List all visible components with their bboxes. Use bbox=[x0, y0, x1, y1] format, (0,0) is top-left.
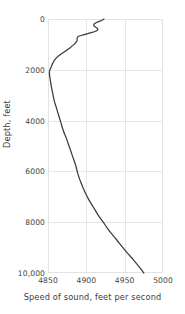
x-tick-label: 5000 bbox=[153, 276, 173, 285]
sound-speed-profile-chart: 4850490049505000 0200040006000800010,000… bbox=[0, 0, 185, 314]
y-tick-label: 10,000 bbox=[18, 269, 45, 278]
y-tick-label: 6000 bbox=[25, 167, 45, 176]
y-tick-label: 8000 bbox=[25, 218, 45, 227]
x-axis-title: Speed of sound, feet per second bbox=[0, 292, 185, 302]
y-tick-label: 0 bbox=[40, 15, 45, 24]
sound-speed-curve bbox=[48, 19, 163, 273]
y-axis-title: Depth, feet bbox=[2, 100, 12, 148]
plot-area bbox=[48, 19, 163, 273]
y-tick-label: 2000 bbox=[25, 65, 45, 74]
x-tick-label: 4900 bbox=[76, 276, 96, 285]
x-tick-label: 4950 bbox=[115, 276, 135, 285]
y-tick-label: 4000 bbox=[25, 116, 45, 125]
